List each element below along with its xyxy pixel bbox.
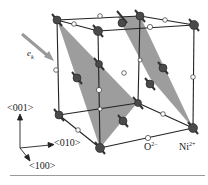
spin-sticks (52, 10, 199, 154)
beam-label-sub: k (31, 54, 34, 60)
beam-label: ek (27, 49, 34, 60)
legend-nickel-symbol: Ni (179, 141, 189, 152)
axis-label-001: <001> (7, 103, 33, 113)
lattice-plane-left (57, 20, 137, 148)
legend-nickel-charge: 2+ (189, 141, 195, 147)
bottom-rule (10, 175, 205, 176)
axis-label-010: <010> (54, 138, 80, 148)
legend-oxygen-charge: 2− (151, 141, 157, 147)
nio-crystal-structure-diagram (0, 0, 208, 185)
axes-icon (18, 114, 55, 161)
legend-nickel: Ni2+ (179, 141, 195, 152)
legend-oxygen: O2− (144, 141, 158, 152)
axis-label-100: <100> (29, 161, 55, 171)
